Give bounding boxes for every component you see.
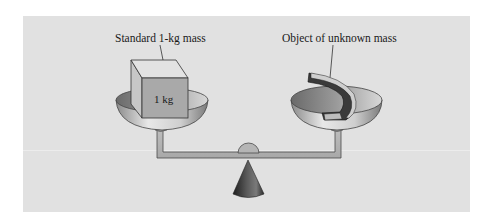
leader-line-right: [330, 45, 333, 78]
label-unknown-mass: Object of unknown mass: [282, 32, 397, 44]
fulcrum-cone: [233, 160, 264, 198]
cube-label-1kg: 1 kg: [154, 93, 173, 105]
pivot-dome: [238, 143, 259, 153]
right-pan: [291, 86, 382, 132]
label-standard-mass: Standard 1-kg mass: [115, 32, 206, 44]
leader-line-left: [160, 45, 163, 60]
standard-1kg-cube: [131, 60, 188, 118]
balance-scale-illustration: [0, 0, 493, 221]
